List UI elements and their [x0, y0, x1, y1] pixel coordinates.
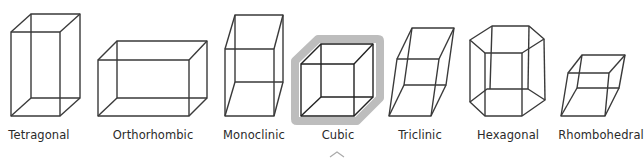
label-tetragonal[interactable]: Tetragonal: [8, 128, 69, 142]
hexagonal-shape[interactable]: [470, 26, 545, 116]
tetragonal-shape[interactable]: [11, 14, 80, 116]
label-triclinic[interactable]: Triclinic: [398, 128, 442, 142]
monoclinic-shape[interactable]: [225, 15, 283, 116]
label-monoclinic[interactable]: Monoclinic: [223, 128, 285, 142]
rhombohedral-shape[interactable]: [561, 55, 625, 116]
triclinic-shape[interactable]: [389, 28, 454, 116]
caret-up-icon: [330, 152, 344, 157]
orthorhombic-shape[interactable]: [98, 41, 207, 116]
label-cubic[interactable]: Cubic: [322, 128, 355, 142]
label-rhombohedral[interactable]: Rhombohedral: [558, 128, 644, 142]
label-hexagonal[interactable]: Hexagonal: [477, 128, 539, 142]
label-orthorhombic[interactable]: Orthorhombic: [113, 128, 194, 142]
